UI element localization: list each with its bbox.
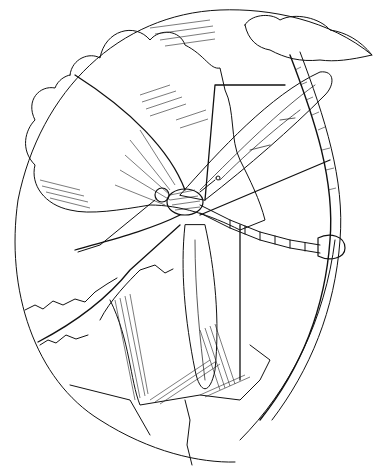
illustration-canvas: Crane fly illustration in oval frame <box>0 0 383 475</box>
rocky-ground <box>25 265 270 465</box>
oval-frame <box>15 10 372 462</box>
abdomen-tip <box>318 235 345 259</box>
thorax <box>167 189 203 215</box>
cloud-right <box>245 15 372 60</box>
halter <box>200 176 220 192</box>
grass-stem <box>260 52 341 420</box>
oval-frame-right <box>240 240 335 440</box>
crane-fly-illustration <box>0 0 383 475</box>
wings <box>115 72 332 389</box>
